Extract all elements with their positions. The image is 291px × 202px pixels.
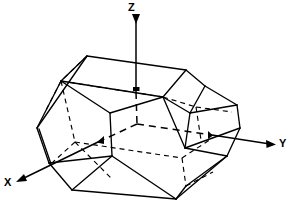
crystal-axes-figure: Z Y X — [0, 0, 291, 202]
z-axis — [132, 14, 140, 124]
z-axis-tick — [133, 87, 140, 91]
edge-top-right-bevel — [163, 70, 186, 97]
axis-label-z: Z — [128, 2, 135, 13]
edge-top-left-bevel — [61, 56, 87, 81]
edge-upper-right-facet-join — [190, 86, 205, 113]
edge-upper-right-facet-to-corner — [190, 105, 237, 113]
axis-label-y: Y — [279, 138, 286, 149]
edge-left-back-bevel — [37, 56, 87, 128]
x-axis-shaft-outer — [22, 142, 98, 179]
x-axis-arrowhead — [16, 174, 27, 182]
y-axis-shaft-outer — [212, 135, 270, 144]
visible-edges-group — [37, 56, 240, 199]
edge-bottom-right-tip-long — [176, 156, 227, 199]
edge-right-corner-upper — [237, 105, 240, 128]
edge-left-upper-bevel — [37, 81, 61, 128]
edge-left-lower-bevel — [37, 128, 49, 163]
edge-left-lower-bevel-inner — [39, 129, 51, 164]
edge-front-top-left-join — [61, 81, 110, 113]
hidden-edge-bottom-right-bevel — [182, 158, 186, 186]
y-axis-shaft-inner — [137, 124, 212, 135]
hidden-edge-right-rear-upper — [163, 97, 196, 107]
edge-front-pillar-left — [110, 113, 112, 156]
edge-bottom-right-tip-short — [186, 156, 227, 186]
edge-front-bottom-left — [72, 156, 112, 190]
y-axis-arrowhead — [266, 140, 276, 148]
hidden-edge-floor-rear-rim — [75, 142, 182, 158]
z-axis-shaft-inner — [136, 92, 137, 124]
crystal-drawing — [0, 0, 291, 202]
y-axis — [137, 124, 276, 148]
edge-top-front-long — [61, 81, 163, 97]
edge-upper-right-b — [205, 86, 237, 105]
edge-bottom-front-long — [72, 190, 176, 199]
edge-upper-right-a — [186, 70, 205, 86]
z-axis-arrowhead — [132, 14, 140, 24]
edge-right-mid-pillar — [163, 97, 185, 148]
x-axis — [16, 124, 137, 182]
axis-label-x: X — [4, 177, 11, 188]
edge-front-bottom-right — [112, 156, 176, 199]
edge-left-to-bottom-front — [49, 163, 72, 190]
